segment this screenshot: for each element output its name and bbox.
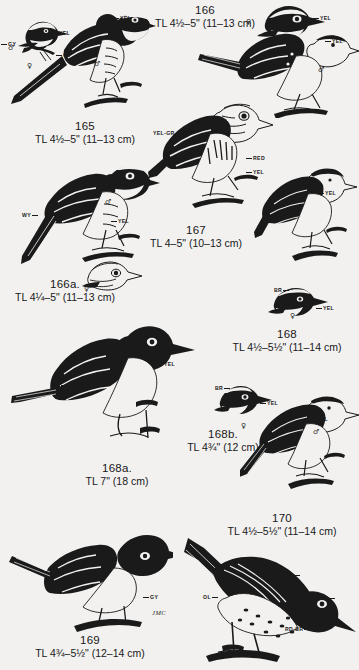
caption-number-168a: 168a. [62, 462, 172, 475]
caption-168b: 168b. TL 4¾" (12 cm) [168, 428, 278, 454]
part-label-yel-166a: YEL [320, 15, 331, 21]
part-label-yel-gr: YEL-GR [153, 130, 175, 136]
part-label-yel-168a: YEL [164, 361, 175, 367]
caption-tl-167: TL 4–5" (10–13 cm) [136, 238, 256, 250]
part-label-br-168a: BR [52, 382, 60, 388]
figure-165 [6, 4, 156, 116]
bird-illustration-168 [254, 164, 359, 269]
caption-tl-168a: TL 7" (18 cm) [62, 476, 172, 488]
part-label-br-168b: BR [215, 385, 223, 391]
sex-symbol-male-2: ♂ [94, 60, 100, 68]
sex-symbol-male-168b: ♂ [313, 428, 319, 436]
part-label-red: RED [253, 155, 265, 161]
artist-signature: JMC [152, 609, 166, 616]
figure-168 [254, 164, 359, 269]
part-label-br-168: BR [274, 287, 282, 293]
bird-illustration-170 [182, 516, 359, 670]
caption-168a: 168a. TL 7" (18 cm) [62, 462, 172, 488]
caption-tl-168b: TL 4¾" (12 cm) [168, 442, 278, 454]
part-label-gy: GY [8, 41, 16, 47]
part-label-yel-168b-2: YEL [317, 416, 328, 422]
caption-number-165: 165 [0, 120, 170, 133]
part-label-dr: DR [320, 595, 328, 601]
caption-168: 168 TL 4½–5½" (11–14 cm) [215, 328, 359, 354]
sex-symbol-female: ♀ [27, 62, 32, 70]
field-guide-plate: ♂ ♀ ♂ GY YEL GY YEL 165 TL 4½–5" (11–13 … [0, 0, 359, 670]
caption-167: 167 TL 4–5" (10–13 cm) [136, 224, 256, 250]
part-label-yel: YEL [59, 30, 70, 36]
part-label-yel-166a-2: YEL [118, 218, 129, 224]
caption-166: 166 TL 4½–5" (11–13 cm) [150, 4, 260, 30]
caption-number-166a: 166a. [0, 278, 130, 291]
part-label-yel-166a-1: YEL [118, 178, 129, 184]
part-label-gy-2: GY [63, 52, 71, 58]
part-label-yel-166b: YEL [332, 38, 343, 44]
part-label-yel-168b: YEL [323, 305, 334, 311]
part-label-wy: WY [22, 212, 31, 218]
sex-symbol-female-168: ♀ [290, 312, 295, 320]
part-label-rd-br: RD-BR [285, 626, 303, 632]
part-label-yel-2: YEL [120, 15, 131, 21]
sex-symbol-male-166: ♂ [318, 66, 324, 74]
caption-number-168: 168 [215, 328, 359, 341]
caption-number-168b: 168b. [168, 428, 278, 441]
sex-symbol-female-166: ♀ [246, 18, 251, 26]
bird-illustration-169 [8, 526, 173, 636]
part-label-gy-169: GY [150, 594, 158, 600]
part-label-ol-170-1: OL [203, 594, 211, 600]
caption-166a: 166a. TL 4¼–5" (11–13 cm) [0, 278, 130, 304]
figure-170 [182, 516, 359, 670]
part-label-yel-168: YEL [325, 190, 336, 196]
caption-tl-168: TL 4½–5½" (11–14 cm) [215, 342, 359, 354]
sex-symbol-male-166a: ♂ [105, 198, 111, 206]
caption-number-169: 169 [0, 634, 180, 647]
caption-165: 165 TL 4½–5" (11–13 cm) [0, 120, 170, 146]
caption-tl-166a: TL 4¼–5" (11–13 cm) [0, 292, 130, 304]
bird-illustration-165 [6, 4, 156, 116]
caption-tl-165: TL 4½–5" (11–13 cm) [0, 134, 170, 146]
caption-tl-169: TL 4¾–5½" (12–14 cm) [0, 648, 180, 660]
figure-169 [8, 526, 173, 636]
caption-number-166: 166 [150, 4, 260, 17]
caption-169: 169 TL 4¾–5½" (12–14 cm) [0, 634, 180, 660]
part-label-ol-170-2: OL [285, 572, 293, 578]
caption-number-167: 167 [136, 224, 256, 237]
